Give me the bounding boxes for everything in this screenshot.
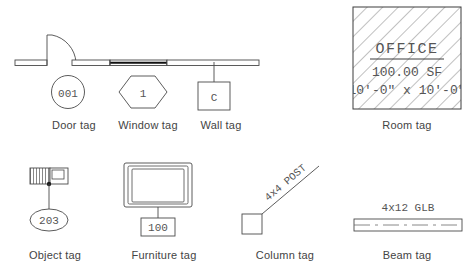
- furniture-tag-symbol[interactable]: 100: [118, 160, 208, 238]
- room-name: OFFICE: [375, 41, 438, 58]
- caption-furniture-tag: Furniture tag: [116, 249, 212, 261]
- door-tag-symbol[interactable]: 001: [40, 72, 96, 116]
- beam-tag-symbol[interactable]: 4x12 GLB: [352, 195, 464, 241]
- caption-beam-tag: Beam tag: [355, 249, 459, 261]
- caption-door-tag: Door tag: [40, 119, 108, 131]
- window-tag-number: 1: [140, 88, 147, 100]
- furniture-symbol-inner: [132, 169, 184, 202]
- door-tag-number: 001: [58, 88, 78, 100]
- wall-tag-number: C: [211, 92, 218, 104]
- caption-wall-tag: Wall tag: [190, 119, 252, 131]
- room-dimensions: 10'-0" x 10'-0": [348, 83, 465, 98]
- column-tag-symbol[interactable]: 4x4 POST: [236, 158, 340, 238]
- column-tag-label: 4x4 POST: [262, 162, 308, 204]
- object-tag-number: 203: [39, 215, 59, 227]
- caption-object-tag: Object tag: [12, 249, 98, 261]
- legend-canvas: 001 1 C OFFICE 1: [0, 0, 471, 273]
- room-area: 100.00 SF: [372, 65, 442, 80]
- caption-column-tag: Column tag: [238, 249, 332, 261]
- column-symbol-square: [242, 214, 262, 234]
- window-tag-symbol[interactable]: 1: [113, 72, 175, 116]
- caption-window-tag: Window tag: [108, 119, 188, 131]
- wall-tag-symbol[interactable]: C: [190, 62, 252, 118]
- object-symbol-inner: [52, 170, 64, 179]
- object-symbol-hatched: [30, 168, 50, 184]
- beam-tag-label: 4x12 GLB: [382, 202, 435, 214]
- object-tag-symbol[interactable]: 203: [18, 165, 94, 237]
- furniture-tag-number: 100: [148, 222, 168, 234]
- room-tag-symbol[interactable]: OFFICE 100.00 SF 10'-0" x 10'-0": [352, 6, 464, 112]
- caption-room-tag: Room tag: [352, 119, 462, 131]
